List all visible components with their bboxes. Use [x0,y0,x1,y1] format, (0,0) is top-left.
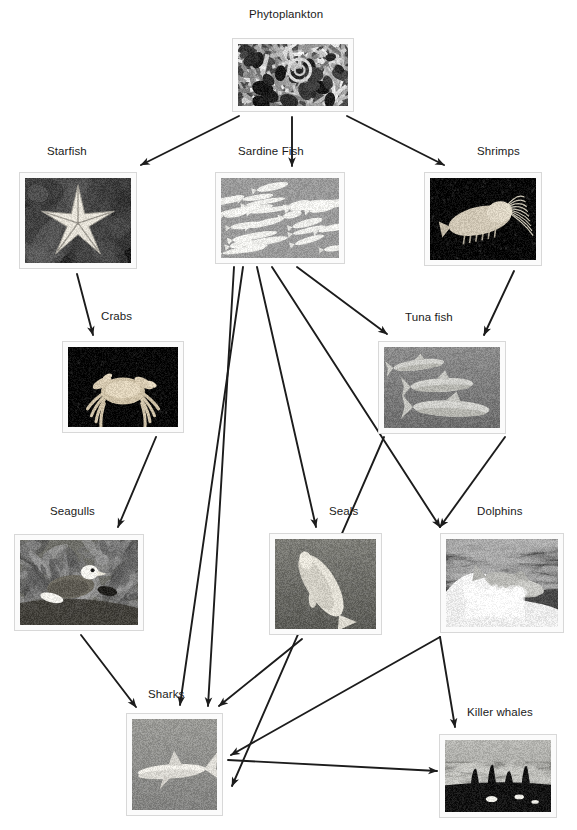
node-label-sharks: Sharks [148,688,184,701]
phytoplankton-photo [238,44,348,106]
node-label-seals: Seals [329,505,358,518]
arrow-seagulls-to-sharks [81,635,136,707]
node-phytoplankton[interactable] [232,38,354,112]
seal-photo [275,539,376,629]
node-dolphins[interactable] [440,533,564,633]
node-killer-whales[interactable] [439,734,557,818]
arrow-sardine-to-sharks-a [208,267,234,706]
seagull-photo [20,540,138,625]
node-seals[interactable] [269,533,382,635]
arrow-shrimps-to-tuna [484,271,514,335]
tuna-fish-photo [384,347,500,428]
food-web-diagram: PhytoplanktonStarfishSardine FishShrimps… [0,0,577,830]
arrow-sardine-to-sharks-b [180,267,243,705]
node-sardine-fish[interactable] [215,172,345,264]
arrow-sharks-to-killer-whales [228,760,437,771]
node-label-dolphins: Dolphins [477,505,523,518]
node-seagulls[interactable] [14,534,144,631]
node-label-killer-whales: Killer whales [467,706,533,719]
shark-photo [132,719,217,810]
arrow-dolphins-to-sharks [231,637,440,755]
arrow-crabs-to-seagulls [118,437,156,527]
node-label-phytoplankton: Phytoplankton [249,8,323,21]
crab-photo [68,347,178,427]
shrimp-photo [430,178,536,260]
dolphin-photo [446,539,558,627]
arrow-dolphins-to-killer-whales [440,637,455,727]
arrow-phytoplankton-to-starfish [141,116,239,165]
node-label-shrimps: Shrimps [477,145,520,158]
sardine-fish-photo [221,178,339,258]
arrow-starfish-to-crabs [77,274,93,335]
arrow-phytoplankton-to-shrimps [347,116,444,165]
starfish-photo [25,178,131,263]
node-label-seagulls: Seagulls [50,505,95,518]
node-crabs[interactable] [62,341,184,433]
node-label-sardine-fish: Sardine Fish [238,145,304,158]
node-sharks[interactable] [126,713,223,816]
arrow-sardine-to-seals [257,267,316,527]
node-starfish[interactable] [19,172,137,269]
arrow-seals-to-sharks [219,639,302,706]
node-tuna-fish[interactable] [378,341,506,434]
node-shrimps[interactable] [424,172,542,266]
arrow-sardine-to-tuna [297,267,387,334]
node-label-tuna-fish: Tuna fish [405,311,453,324]
node-label-starfish: Starfish [47,145,87,158]
node-label-crabs: Crabs [101,310,132,323]
killer-whale-photo [445,740,551,812]
